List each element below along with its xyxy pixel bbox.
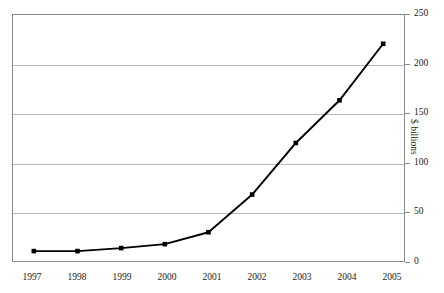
gridline-100 [13,164,404,165]
xtick-label-2004: 2004 [327,272,367,282]
ytick-mark-100 [405,163,410,164]
xtick-label-2000: 2000 [147,272,187,282]
ytick-label-150: 150 [414,107,428,117]
gridline-200 [13,65,404,66]
gridline-150 [13,114,404,115]
ytick-mark-0 [405,262,410,263]
xtick-label-2002: 2002 [237,272,277,282]
ytick-mark-200 [405,64,410,65]
xtick-label-2005: 2005 [372,272,412,282]
xtick-label-1997: 1997 [12,272,52,282]
y-axis-title: $ billions [409,119,419,155]
ytick-mark-150 [405,113,410,114]
ytick-label-0: 0 [414,256,419,266]
gridline-50 [13,213,404,214]
ytick-label-250: 250 [414,8,428,18]
ytick-mark-50 [405,212,410,213]
line-chart: 250 200 150 100 50 0 $ billions 1997 199… [0,0,444,293]
xtick-label-2001: 2001 [192,272,232,282]
xtick-label-2003: 2003 [282,272,322,282]
ytick-label-50: 50 [414,206,424,216]
xtick-label-1999: 1999 [102,272,142,282]
xtick-label-1998: 1998 [57,272,97,282]
plot-area [12,14,405,262]
ytick-label-100: 100 [414,157,428,167]
ytick-label-200: 200 [414,58,428,68]
ytick-mark-250 [405,14,410,15]
